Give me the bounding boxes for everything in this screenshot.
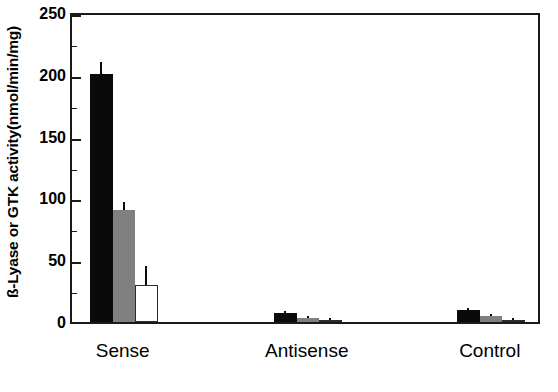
bar-control-series-white: [502, 320, 525, 322]
error-bar-control-series-black: [467, 308, 469, 310]
y-tick-minor-125: [72, 170, 77, 171]
error-bar-sense-series-gray: [123, 202, 125, 209]
y-tick-major-200: [72, 77, 81, 79]
y-tick-label-150: 150: [26, 130, 66, 146]
y-tick-label-200: 200: [26, 68, 66, 84]
error-bar-sense-series-white: [145, 266, 147, 285]
bar-control-series-gray: [480, 316, 503, 322]
plot-frame: [70, 13, 540, 324]
y-tick-major-100: [72, 200, 81, 202]
error-bar-antisense-series-black: [284, 311, 286, 313]
bar-control-series-black: [457, 310, 480, 322]
bar-antisense-series-gray: [297, 318, 320, 322]
bar-sense-series-gray: [113, 210, 136, 322]
bar-sense-series-black: [90, 74, 113, 322]
y-tick-major-150: [72, 139, 81, 141]
y-tick-minor-75: [72, 231, 77, 232]
bar-antisense-series-black: [274, 313, 297, 322]
y-tick-major-250: [72, 15, 81, 17]
y-tick-minor-175: [72, 108, 77, 109]
bar-antisense-series-white: [319, 320, 342, 322]
y-tick-label-0: 0: [26, 315, 66, 331]
y-tick-minor-225: [72, 46, 77, 47]
x-tick-label-sense: Sense: [53, 340, 193, 362]
x-tick-label-antisense: Antisense: [237, 340, 377, 362]
error-bar-control-series-gray: [490, 314, 492, 316]
x-tick-label-control: Control: [420, 340, 558, 362]
y-tick-label-100: 100: [26, 191, 66, 207]
y-axis-title: ß-Lyase or GTK activity(nmol/min/mg): [0, 0, 26, 324]
error-bar-control-series-white: [512, 318, 514, 320]
y-tick-minor-25: [72, 293, 77, 294]
y-axis-tick-labels: 050100150200250: [24, 0, 66, 392]
bar-chart-figure: ß-Lyase or GTK activity(nmol/min/mg) 050…: [0, 0, 558, 392]
bar-sense-series-white: [135, 285, 158, 322]
y-tick-label-250: 250: [26, 6, 66, 22]
plot-area: [72, 15, 538, 322]
y-tick-label-50: 50: [26, 253, 66, 269]
y-tick-major-50: [72, 262, 81, 264]
error-bar-antisense-series-gray: [307, 316, 309, 318]
error-bar-antisense-series-white: [329, 318, 331, 320]
error-bar-sense-series-black: [100, 62, 102, 73]
